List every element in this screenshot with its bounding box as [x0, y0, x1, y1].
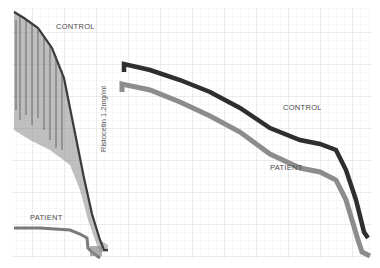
left-control-label: CONTROL [56, 22, 95, 31]
reagent-label: Ristocetin 1.2mg/ml [99, 86, 108, 152]
chart-canvas [0, 0, 380, 268]
left-patient-label: PATIENT [30, 213, 63, 222]
aggregometry-chart: CONTROL PATIENT CONTROL PATIENT Ristocet… [0, 0, 380, 268]
right-patient-label: PATIENT [270, 163, 303, 172]
right-control-label: CONTROL [283, 103, 322, 112]
